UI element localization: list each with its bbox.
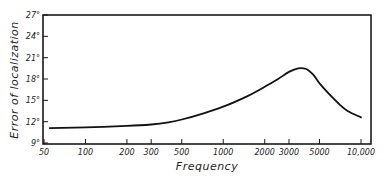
x-tick-label: 100 <box>78 148 93 157</box>
y-tick-label: 9° <box>31 139 40 148</box>
chart: 9°12°15°18°21°24°27° 5010020030050010002… <box>0 0 385 176</box>
plot-frame <box>43 15 371 144</box>
x-tick-label: 500 <box>174 148 189 157</box>
y-tick-label: 27° <box>26 11 40 20</box>
y-tick-label: 15° <box>26 96 40 105</box>
y-tick-label: 12° <box>26 118 40 127</box>
x-tick-label: 1000 <box>213 148 233 157</box>
y-tick-label: 21° <box>26 54 40 63</box>
y-axis-ticks: 9°12°15°18°21°24°27° <box>26 11 48 148</box>
x-tick-label: 5000 <box>309 148 329 157</box>
x-axis-ticks: 50100200300500100020003000500010,000 <box>39 139 375 157</box>
x-tick-label: 200 <box>119 148 134 157</box>
x-tick-label: 3000 <box>279 148 299 157</box>
x-tick-label: 2000 <box>255 148 275 157</box>
x-tick-label: 10,000 <box>347 148 375 157</box>
y-tick-label: 24° <box>26 32 40 41</box>
data-line <box>50 68 361 128</box>
x-axis-title: Frequency <box>176 160 238 173</box>
y-tick-label: 18° <box>26 75 40 84</box>
x-tick-label: 300 <box>144 148 159 157</box>
y-axis-title: Error of localization <box>8 21 21 139</box>
x-tick-label: 50 <box>39 148 49 157</box>
